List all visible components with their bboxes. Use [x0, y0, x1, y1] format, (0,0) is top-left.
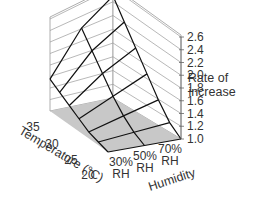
z-tick-label: 1.4 [187, 107, 204, 121]
z-tick-label: 2.6 [187, 30, 204, 44]
surface-chart: 1.01.21.41.61.82.02.22.42.6 20253035 30%… [0, 0, 257, 203]
z-tick-label: 2.2 [187, 56, 204, 70]
z-tick-label: 1.2 [187, 119, 204, 133]
humidity-tick-label: RH [112, 167, 129, 181]
z-tick-label: 1.0 [187, 132, 204, 146]
z-axis-title-line2: increase [188, 85, 235, 99]
humidity-axis-title: Humidity [147, 165, 198, 194]
humidity-tick-label: RH [161, 154, 178, 168]
humidity-tick-label: RH [136, 161, 153, 175]
z-axis-title-line1: Rate of [188, 71, 229, 85]
z-tick-label: 2.4 [187, 43, 204, 57]
